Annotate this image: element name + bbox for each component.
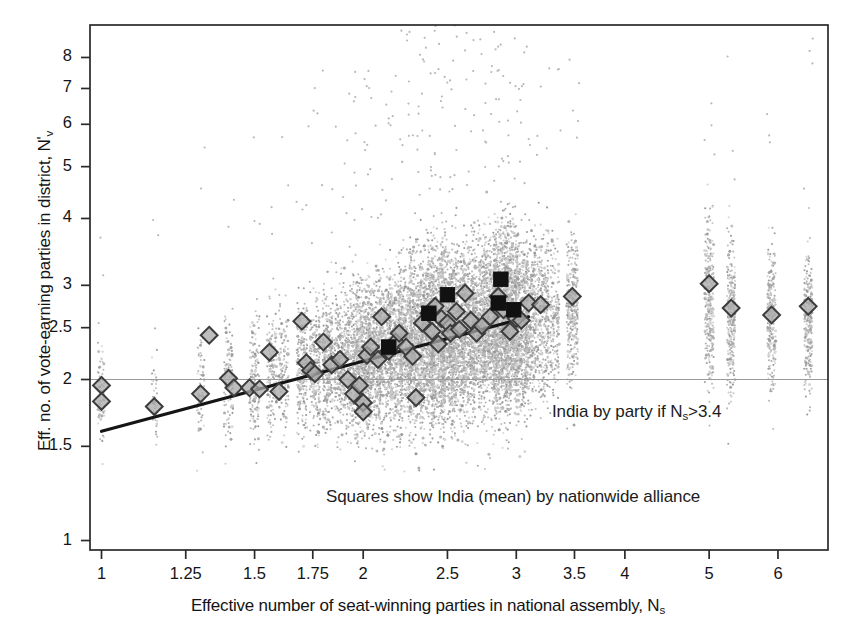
- x-axis-title-text: Effective number of seat-winning parties…: [191, 596, 659, 615]
- x-tick-label: 1: [61, 564, 141, 583]
- y-axis-title-wrapper: Eff. no. of vote-earning parties in dist…: [34, 0, 58, 591]
- x-axis-title: Effective number of seat-winning parties…: [0, 596, 856, 616]
- y-axis-tick-marks: [81, 57, 90, 540]
- scatter-plot: [0, 0, 856, 640]
- x-tick-label: 2: [323, 564, 403, 583]
- x-axis-title-subscript: s: [659, 604, 665, 616]
- x-tick-label: 4: [585, 564, 665, 583]
- x-axis-tick-marks: [101, 550, 777, 559]
- figure-container: 11.251.51.7522.533.5456 11.522.5345678 I…: [0, 0, 856, 640]
- x-tick-label: 6: [738, 564, 818, 583]
- annotation-india-by-party: India by party if Ns>3.4: [552, 402, 721, 422]
- annotation-squares-legend: Squares show India (mean) by nationwide …: [326, 487, 700, 507]
- y-axis-title-subscript: v: [43, 131, 55, 137]
- y-axis-title-text: Eff. no. of vote-earning parties in dist…: [35, 139, 54, 451]
- annotation-india-by-party-post: >3.4: [688, 402, 721, 421]
- y-axis-title: Eff. no. of vote-earning parties in dist…: [34, 131, 55, 451]
- annotation-india-by-party-pre: India by party if N: [552, 402, 682, 421]
